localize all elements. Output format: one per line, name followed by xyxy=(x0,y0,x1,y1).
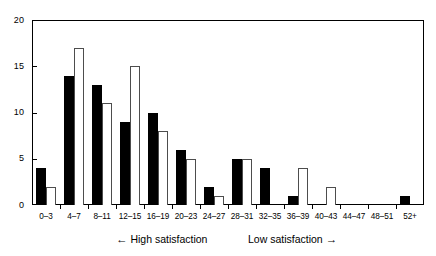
x-axis-label: 52+ xyxy=(386,212,434,222)
x-axis-tick xyxy=(172,205,173,209)
y-axis-label-0: 0 xyxy=(19,201,24,210)
x-axis-tick xyxy=(368,205,369,209)
x-axis-tick xyxy=(256,205,257,209)
x-axis-tick xyxy=(144,205,145,209)
arrow-right-icon: → xyxy=(326,233,338,245)
x-axis-tick xyxy=(312,205,313,209)
bar-filled xyxy=(148,113,158,206)
bar-group xyxy=(396,20,424,205)
bar-outlined xyxy=(298,168,308,205)
x-axis-ticks xyxy=(32,205,424,210)
bar-group xyxy=(284,20,312,205)
x-axis-tick xyxy=(396,205,397,209)
bar-group xyxy=(340,20,368,205)
bar-filled xyxy=(120,122,130,205)
bar-filled xyxy=(400,196,410,205)
x-axis-tick xyxy=(88,205,89,209)
bar-group xyxy=(144,20,172,205)
x-axis-tick xyxy=(200,205,201,209)
bar-group xyxy=(116,20,144,205)
bar-filled xyxy=(92,85,102,205)
bar-outlined xyxy=(74,48,84,205)
bar-filled xyxy=(232,159,242,205)
bar-filled xyxy=(260,168,270,205)
x-axis-tick xyxy=(60,205,61,209)
bar-group xyxy=(32,20,60,205)
bar-outlined xyxy=(214,196,224,205)
x-axis-tick xyxy=(116,205,117,209)
bar-group xyxy=(312,20,340,205)
bar-outlined xyxy=(186,159,196,205)
caption-low-satisfaction-label: Low satisfaction xyxy=(248,233,323,245)
x-axis-tick xyxy=(284,205,285,209)
bar-filled xyxy=(176,150,186,206)
y-axis-label-5: 5 xyxy=(19,154,24,163)
bar-outlined xyxy=(130,66,140,205)
y-axis-label-10: 10 xyxy=(14,108,24,117)
x-axis-tick xyxy=(228,205,229,209)
bar-outlined xyxy=(242,159,252,205)
bar-outlined xyxy=(158,131,168,205)
y-axis-label-15: 15 xyxy=(14,62,24,71)
bar-outlined xyxy=(46,187,56,206)
bar-group xyxy=(368,20,396,205)
bar-group xyxy=(256,20,284,205)
arrow-left-icon: ← xyxy=(116,233,128,245)
bar-group xyxy=(88,20,116,205)
bar-group xyxy=(200,20,228,205)
axis-captions: ← High satisfaction Low satisfaction → xyxy=(0,232,436,250)
bar-outlined xyxy=(326,187,336,206)
bar-filled xyxy=(204,187,214,206)
bar-filled xyxy=(64,76,74,206)
caption-high-satisfaction: ← High satisfaction xyxy=(116,232,207,246)
caption-high-satisfaction-label: High satisfaction xyxy=(130,233,207,245)
bar-group xyxy=(228,20,256,205)
bar-group xyxy=(172,20,200,205)
bar-filled xyxy=(36,168,46,205)
x-axis-labels: 0–34–78–1112–1516–1920–2324–2728–3132–35… xyxy=(0,212,436,226)
y-axis-label-20: 20 xyxy=(14,16,24,25)
bar-filled xyxy=(288,196,298,205)
bar-chart: 20 15 10 5 0 0–34–78–1112–1516–1920–2324… xyxy=(0,0,436,256)
bar-group xyxy=(60,20,88,205)
bars-layer xyxy=(32,20,424,205)
bar-outlined xyxy=(102,103,112,205)
x-axis-tick xyxy=(340,205,341,209)
caption-low-satisfaction: Low satisfaction → xyxy=(248,232,337,246)
